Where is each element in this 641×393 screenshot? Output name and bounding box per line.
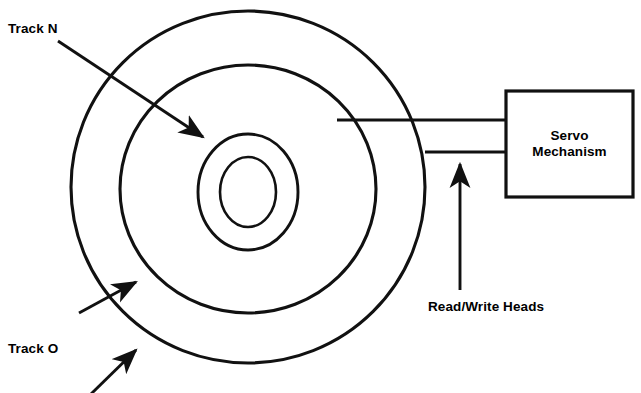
track-n-label: Track N bbox=[8, 21, 57, 37]
servo-mechanism-label-line-1: Servo bbox=[550, 128, 588, 144]
read-write-heads-label: Read/Write Heads bbox=[428, 299, 544, 315]
disk-servo-diagram: Track N Track O Read/Write Heads Servo M… bbox=[0, 0, 641, 393]
inner-track-ring bbox=[198, 134, 298, 250]
servo-mechanism-label: Servo Mechanism bbox=[506, 91, 633, 197]
track-o-label: Track O bbox=[8, 341, 58, 357]
servo-mechanism-label-line-2: Mechanism bbox=[532, 144, 606, 160]
middle-track-ring bbox=[120, 65, 376, 313]
spindle-hole-ring bbox=[220, 157, 276, 227]
track-o-lower-arrow bbox=[91, 350, 136, 393]
track-o-upper-arrow bbox=[79, 282, 136, 313]
